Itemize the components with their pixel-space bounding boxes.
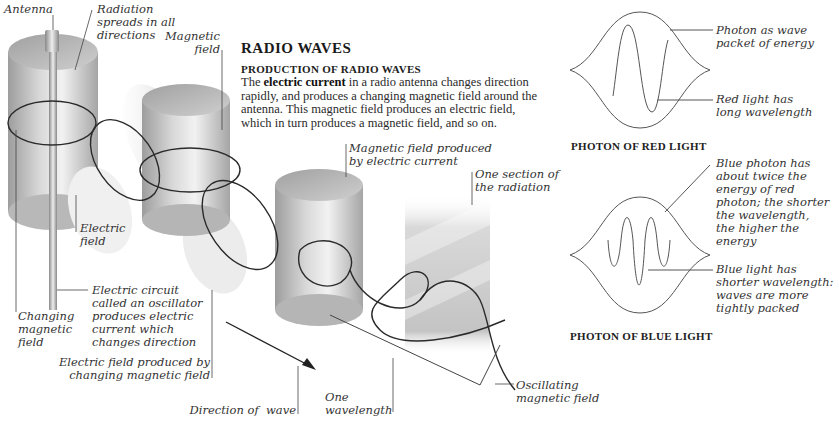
description-paragraph: The electric current in a radio antenna … (241, 76, 541, 130)
label-blue-energy: Blue photon has about twice the energy o… (716, 157, 829, 248)
label-oscillating-magnetic-field: Oscillating magnetic field (516, 379, 599, 405)
label-blue-wavelength: Blue light has shorter wavelength: waves… (716, 263, 833, 315)
label-antenna: Antenna (4, 3, 53, 16)
label-electric-field: Electric field (80, 222, 126, 248)
body-bold-term: electric current (264, 75, 346, 89)
label-electric-field-produced: Electric field produced by changing magn… (40, 356, 210, 382)
label-red-wavelength: Red light has long wavelength (716, 93, 812, 119)
cylinder-3 (275, 169, 363, 326)
label-photon-packet: Photon as wave packet of energy (716, 24, 814, 50)
caption-blue-photon: PHOTON OF BLUE LIGHT (570, 330, 713, 342)
blue-photon-diagram (570, 165, 713, 313)
label-one-section: One section of the radiation (475, 168, 559, 194)
label-electric-circuit: Electric circuit called an oscillator pr… (92, 284, 203, 349)
label-one-wavelength: One wavelength (325, 391, 392, 417)
cylinder-2 (142, 84, 230, 236)
label-magnetic-field-produced: Magnetic field produced by electric curr… (349, 142, 492, 168)
section-subtitle: PRODUCTION OF RADIO WAVES (241, 63, 421, 75)
body-prefix: The (241, 75, 264, 89)
red-photon-diagram (570, 12, 713, 128)
label-direction-of-wave: Direction of wave (150, 404, 296, 417)
label-magnetic-field: Magnetic field (160, 30, 220, 56)
label-changing-magnetic-field: Changing magnetic field (18, 310, 74, 349)
caption-red-photon: PHOTON OF RED LIGHT (571, 140, 707, 152)
page-title: RADIO WAVES (241, 40, 351, 57)
